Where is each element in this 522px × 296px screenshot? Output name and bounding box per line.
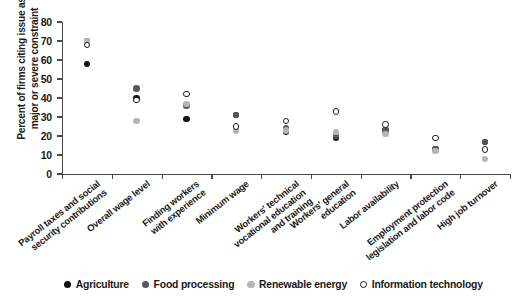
y-tick-label: 0 — [0, 169, 52, 179]
x-tick-mark — [62, 174, 63, 179]
x-axis-line — [62, 174, 510, 175]
x-tick-mark — [112, 174, 113, 179]
x-tick-mark — [410, 174, 411, 179]
data-point — [183, 91, 189, 97]
data-point — [133, 85, 139, 91]
x-tick-mark — [162, 174, 163, 179]
y-tick-label: 40 — [0, 93, 52, 103]
legend-label: Agriculture — [76, 279, 129, 290]
legend-marker-icon — [360, 281, 367, 288]
data-point — [382, 121, 388, 127]
x-tick-mark — [510, 174, 511, 179]
data-point — [482, 146, 488, 152]
data-point — [84, 42, 90, 48]
legend-item[interactable]: Agriculture — [64, 279, 129, 290]
y-tick-label: 60 — [0, 55, 52, 65]
x-tick-mark — [211, 174, 212, 179]
data-point — [133, 118, 139, 124]
legend-marker-icon — [247, 281, 254, 288]
y-tick-label: 10 — [0, 150, 52, 160]
data-point — [84, 61, 90, 67]
legend-item[interactable]: Food processing — [142, 279, 234, 290]
dot-plot-chart: Percent of firms citing issue as major o… — [0, 0, 522, 296]
y-tick-label: 80 — [0, 17, 52, 27]
data-point — [432, 135, 438, 141]
legend-marker-icon — [142, 281, 149, 288]
legend-item[interactable]: Renewable energy — [247, 279, 347, 290]
legend-label: Renewable energy — [259, 279, 347, 290]
y-tick-label: 70 — [0, 36, 52, 46]
data-point — [233, 112, 239, 118]
chart-legend: AgricultureFood processingRenewable ener… — [64, 279, 483, 290]
legend-marker-icon — [64, 281, 71, 288]
data-point — [183, 101, 189, 107]
legend-label: Information technology — [372, 279, 483, 290]
data-point — [432, 148, 438, 154]
data-point — [482, 139, 488, 145]
x-tick-mark — [460, 174, 461, 179]
legend-label: Food processing — [154, 279, 235, 290]
data-point — [283, 118, 289, 124]
data-point — [382, 131, 388, 137]
x-tick-mark — [361, 174, 362, 179]
plot-area — [62, 22, 510, 174]
legend-item[interactable]: Information technology — [360, 279, 483, 290]
y-tick-label: 30 — [0, 112, 52, 122]
y-tick-label: 50 — [0, 74, 52, 84]
data-point — [482, 156, 488, 162]
data-point — [333, 108, 339, 114]
data-point — [183, 116, 189, 122]
y-tick-label: 20 — [0, 131, 52, 141]
data-point — [133, 97, 139, 103]
x-tick-mark — [261, 174, 262, 179]
data-point — [283, 127, 289, 133]
x-tick-mark — [311, 174, 312, 179]
